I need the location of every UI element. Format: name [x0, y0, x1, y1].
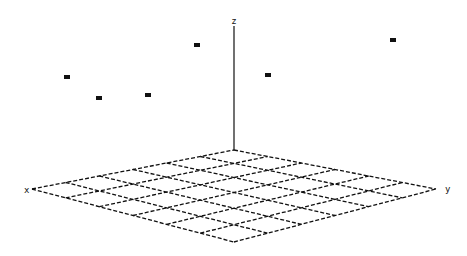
data-point-marker — [145, 93, 151, 97]
data-point-marker — [96, 96, 102, 100]
data-points — [64, 38, 396, 100]
grid-line — [234, 150, 436, 189]
y-axis-label: y — [445, 184, 451, 194]
floor-grid — [32, 150, 436, 242]
data-point-marker — [265, 73, 271, 77]
z-axis-label: z — [231, 16, 236, 26]
data-point-marker — [64, 75, 70, 79]
data-point-marker — [390, 38, 396, 42]
plot-canvas: x y z — [0, 0, 467, 256]
data-point-marker — [194, 43, 200, 47]
3d-scatter-plot: x y z — [0, 0, 467, 256]
x-axis-label: x — [24, 185, 30, 195]
